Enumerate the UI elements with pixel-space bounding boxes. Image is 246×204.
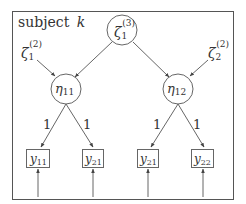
plate-label: subject k	[18, 14, 85, 30]
disturbance-zeta1-2: ζ1(2)	[21, 39, 42, 62]
indicator-y22: y22	[192, 150, 214, 168]
svg-text:ζ1(2): ζ1(2)	[21, 39, 42, 62]
loading-label: 1	[153, 117, 161, 132]
indicator-y11: y11	[27, 150, 50, 168]
indicator-y21b: y21	[138, 150, 159, 168]
node-eta11: η11	[51, 74, 81, 104]
edge-zeta3-to-eta11	[75, 42, 112, 77]
edge-zeta2-to-eta12	[190, 60, 208, 76]
loading-label: 1	[43, 117, 51, 132]
node-zeta3: ζ1(3)	[107, 15, 137, 45]
svg-text:ζ2(2): ζ2(2)	[208, 39, 229, 62]
loading-label: 1	[193, 117, 201, 132]
indicator-y21: y21	[83, 150, 104, 168]
node-eta12: η12	[163, 74, 193, 104]
edge-zeta3-to-eta12	[133, 42, 169, 77]
loading-label: 1	[83, 117, 91, 132]
edge-zeta1-to-eta11	[37, 60, 55, 76]
disturbance-zeta2-2: ζ2(2)	[208, 39, 229, 62]
sem-diagram: subject k ζ1(3) ζ1(2) ζ2(2) η11	[0, 0, 246, 204]
